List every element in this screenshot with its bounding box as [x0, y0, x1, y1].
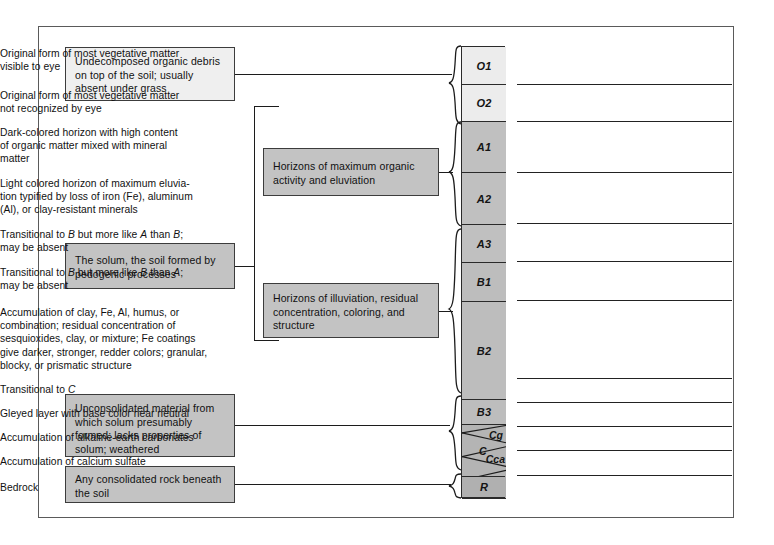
callout-a-horizons: Horizons of maximum organic activity and…	[263, 148, 439, 196]
description-o2: Original form of most vegetative matter …	[0, 89, 215, 115]
description-rule	[517, 300, 732, 301]
connector-solum-top-branch	[254, 106, 279, 107]
horizon-row-a3[interactable]: A3	[462, 225, 506, 263]
horizon-label: A2	[477, 193, 491, 205]
horizon-column-bedrock: R	[461, 476, 505, 498]
callout-line: Horizons of maximum organic	[273, 160, 429, 174]
horizon-row-a2[interactable]: A2	[462, 173, 506, 225]
description-line: Dark-colored horizon with high content	[0, 126, 215, 139]
callout-line: solum; weathered	[75, 443, 225, 457]
description-line: blocky, or prismatic structure	[0, 359, 215, 372]
description-a2: Light colored horizon of maximum eluvia-…	[0, 177, 215, 217]
description-rule	[517, 261, 732, 262]
horizon-column: O1 O2 A1 A2 A3 B1 B2 B3	[461, 46, 505, 498]
description-cca: Accumulation of alkaline-earth carbonate…	[0, 431, 215, 444]
horizon-row-o1[interactable]: O1	[462, 47, 506, 85]
callout-line: activity and eluviation	[273, 174, 429, 188]
horizon-row-o2[interactable]: O2	[462, 85, 506, 122]
description-rule	[517, 223, 732, 224]
description-o1: Original form of most vegetative matter …	[0, 47, 215, 73]
description-line: Transitional to C	[0, 383, 215, 396]
soil-horizon-diagram: Undecomposed organic debris on top of th…	[0, 0, 774, 545]
description-line: Transitional to B but more like B than A…	[0, 266, 215, 279]
horizon-row-b3[interactable]: B3	[462, 400, 506, 425]
description-a1: Dark-colored horizon with high content o…	[0, 126, 215, 166]
callout-parent-material: Unconsolidated material from which solum…	[65, 394, 235, 457]
horizon-row-r-block[interactable]: R	[462, 477, 506, 497]
description-line: may be absent	[0, 241, 215, 254]
description-line: (Al), or clay-resistant minerals	[0, 203, 215, 216]
description-b1: Transitional to B but more like B than A…	[0, 266, 215, 292]
description-a3: Transitional to B but more like A than B…	[0, 228, 215, 254]
description-line: Original form of most vegetative matter	[0, 47, 215, 60]
horizon-row-a1[interactable]: A1	[462, 122, 506, 173]
horizon-label: B2	[477, 345, 491, 357]
description-rule	[517, 475, 732, 476]
description-line: matter	[0, 152, 215, 165]
horizon-row-b2[interactable]: B2	[462, 302, 506, 400]
description-line: Accumulation of clay, Fe, Al, humus, or	[0, 306, 215, 319]
description-line: Accumulation of alkaline-earth carbonate…	[0, 431, 215, 444]
horizon-label: A1	[477, 141, 491, 153]
horizon-row-b1[interactable]: B1	[462, 263, 506, 302]
description-b3: Transitional to C	[0, 383, 215, 396]
description-line: combination; residual concentration of	[0, 319, 215, 332]
callout-line: concentration, coloring, and	[273, 306, 429, 320]
description-line: may be absent	[0, 279, 215, 292]
connector-parent-material	[235, 425, 450, 426]
description-line: Transitional to B but more like A than B…	[0, 228, 215, 241]
description-line: Light colored horizon of maximum eluvia-	[0, 177, 215, 190]
connector-solum-stub	[235, 266, 255, 267]
description-rule	[517, 378, 732, 379]
connector-organic-debris	[235, 74, 452, 75]
horizon-label-cg: Cg	[489, 429, 503, 441]
description-b2: Accumulation of clay, Fe, Al, humus, or …	[0, 306, 215, 372]
description-line: of organic matter mixed with mineral	[0, 139, 215, 152]
description-rule	[517, 426, 732, 427]
horizon-label: R	[480, 481, 488, 493]
description-rule	[517, 450, 732, 451]
horizon-label: O2	[476, 97, 491, 109]
description-line: visible to eye	[0, 60, 215, 73]
description-r: Bedrock	[0, 481, 215, 494]
description-rule	[517, 402, 732, 403]
description-line: Original form of most vegetative matter	[0, 89, 215, 102]
description-line: not recognized by eye	[0, 102, 215, 115]
connector-bedrock	[235, 484, 451, 485]
description-line: tion typified by loss of iron (Fe), alum…	[0, 190, 215, 203]
description-line: Gleyed layer with base color near neutra…	[0, 407, 215, 420]
connector-solum-trunk	[254, 106, 255, 340]
description-rule	[517, 172, 732, 173]
description-line: sesquioxides, clay, or mixture; Fe coati…	[0, 332, 215, 345]
description-rule	[517, 121, 732, 122]
description-cg: Gleyed layer with base color near neutra…	[0, 407, 215, 420]
description-ccs: Accumulation of calcium sulfate	[0, 455, 215, 468]
description-line: Accumulation of calcium sulfate	[0, 455, 215, 468]
description-line: give darker, stronger, redder colors; gr…	[0, 346, 215, 359]
callout-line: structure	[273, 319, 429, 333]
horizon-label: A3	[477, 238, 491, 250]
connector-solum-bottom-branch	[254, 340, 279, 341]
horizon-label: B1	[477, 276, 491, 288]
horizon-label: B3	[477, 406, 491, 418]
description-rule	[517, 84, 732, 85]
callout-line: Horizons of illuviation, residual	[273, 292, 429, 306]
description-line: Bedrock	[0, 481, 215, 494]
horizon-label-cca: Cca	[486, 453, 505, 465]
horizon-label: O1	[476, 60, 491, 72]
callout-b-horizons: Horizons of illuviation, residual concen…	[263, 283, 439, 338]
